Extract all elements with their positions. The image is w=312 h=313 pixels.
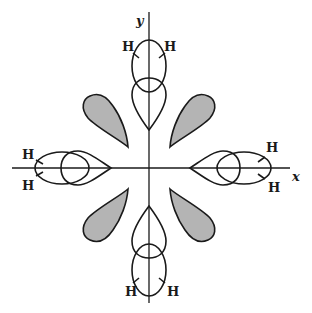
h-label-left-lower: H [22, 178, 34, 193]
h-label-bottom-right: H [167, 284, 179, 299]
h-label-top-left: H [122, 39, 134, 54]
h-label-right-lower: H [268, 180, 280, 195]
shaded-lobe-lower-right [170, 189, 215, 241]
orbital-diagram: y x H H H H H H H H [0, 0, 312, 313]
shaded-lobe-upper-left [83, 95, 128, 147]
x-axis-label: x [291, 169, 300, 184]
h-label-bottom-left: H [125, 284, 137, 299]
shaded-lobe-upper-right [170, 95, 215, 147]
y-axis-label: y [135, 13, 145, 28]
h-label-top-right: H [164, 39, 176, 54]
shaded-lobe-lower-left [83, 189, 128, 241]
h-label-left-upper: H [22, 147, 34, 162]
h-label-right-upper: H [266, 140, 278, 155]
